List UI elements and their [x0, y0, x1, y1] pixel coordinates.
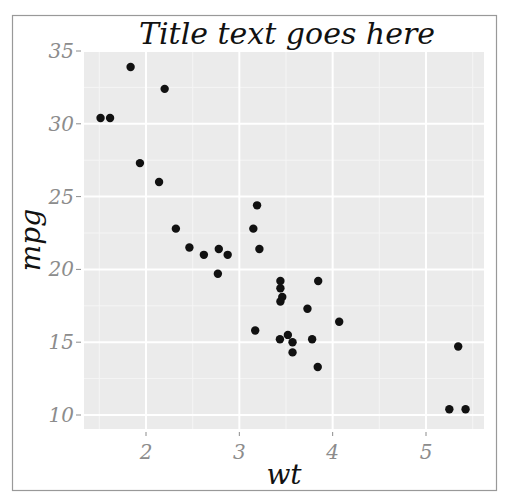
data-point [445, 405, 453, 413]
data-point [200, 251, 208, 259]
data-point [314, 363, 322, 371]
data-point [249, 224, 257, 232]
data-point [308, 335, 316, 343]
data-point [106, 114, 114, 122]
data-point [136, 159, 144, 167]
data-point [251, 326, 259, 334]
data-point [461, 405, 469, 413]
data-point [454, 342, 462, 350]
x-tick-label: 4 [325, 440, 339, 464]
data-point [276, 277, 284, 285]
data-point [288, 348, 296, 356]
data-point [276, 297, 284, 305]
y-tick-label: 25 [48, 185, 74, 209]
x-axis-label: wt [266, 458, 302, 491]
data-point [255, 245, 263, 253]
y-tick-label: 30 [49, 112, 75, 136]
data-point [303, 305, 311, 313]
data-point [215, 245, 223, 253]
x-tick-label: 3 [233, 440, 246, 464]
y-tick-label: 15 [49, 330, 74, 354]
y-axis-label: mpg [14, 209, 47, 271]
data-point [288, 338, 296, 346]
data-point [276, 335, 284, 343]
data-point [160, 85, 168, 93]
data-point [253, 201, 261, 209]
plot-panel [84, 51, 484, 429]
data-point [284, 331, 292, 339]
chart-title: Title text goes here [139, 16, 435, 51]
data-point [223, 251, 231, 259]
data-point [185, 243, 193, 251]
scatter-chart: Title text goes here 101520253035 2345 w… [0, 0, 507, 501]
data-point [214, 270, 222, 278]
y-tick-label: 35 [49, 39, 74, 63]
y-tick-label: 10 [49, 403, 75, 427]
data-point [276, 284, 284, 292]
data-point [155, 178, 163, 186]
y-tick-label: 20 [48, 257, 75, 281]
data-point [126, 63, 134, 71]
data-point [172, 224, 180, 232]
x-tick-label: 5 [420, 440, 433, 464]
data-point [335, 318, 343, 326]
x-tick-label: 2 [139, 440, 153, 464]
data-point [314, 277, 322, 285]
data-point [96, 114, 104, 122]
